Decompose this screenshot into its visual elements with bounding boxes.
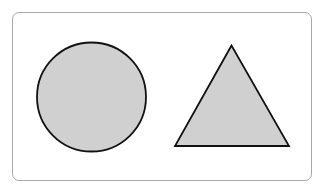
triangle-shape <box>175 46 289 147</box>
shapes-canvas <box>0 0 327 189</box>
circle-shape <box>37 43 146 152</box>
